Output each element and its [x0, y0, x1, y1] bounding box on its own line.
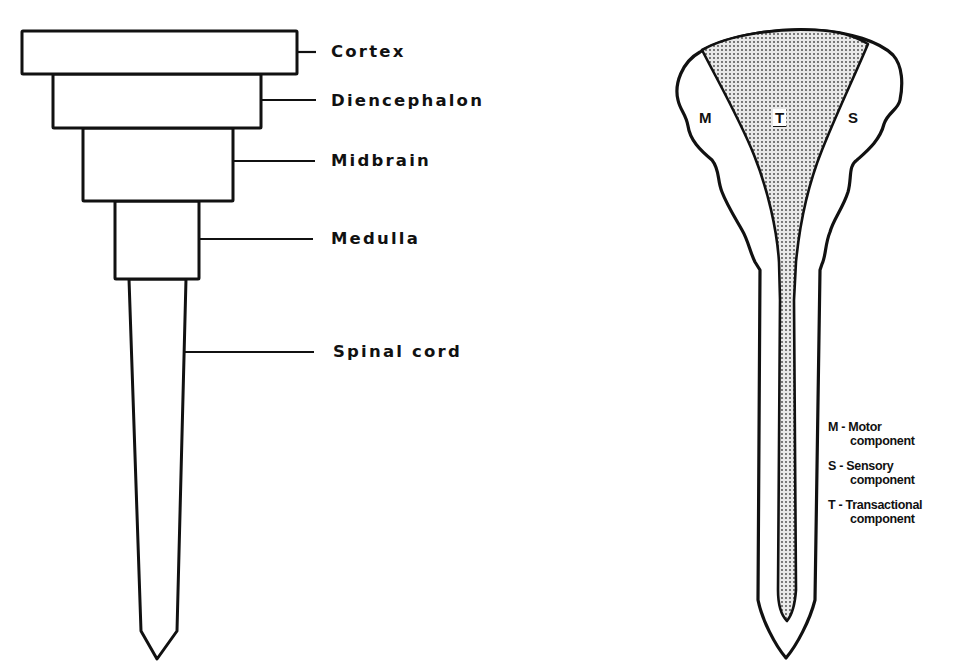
- diagram-graphics: [0, 0, 970, 671]
- legend-transactional-subtitle: component: [828, 512, 922, 526]
- cns-hierarchy-diagram: [22, 31, 297, 659]
- legend-motor-title: M - Motor: [828, 420, 922, 434]
- legend-sensory-subtitle: component: [828, 473, 922, 487]
- region-letter-sensory: S: [848, 110, 858, 125]
- figure-canvas: Cortex Diencephalon Midbrain Medulla Spi…: [0, 0, 970, 671]
- label-cortex: Cortex: [331, 44, 406, 61]
- legend-item-motor: M - Motor component: [828, 420, 922, 448]
- legend-sensory-title: S - Sensory: [828, 459, 922, 473]
- label-midbrain: Midbrain: [331, 153, 431, 170]
- label-medulla: Medulla: [331, 231, 420, 248]
- diencephalon-box: [53, 74, 261, 128]
- cortex-box: [22, 31, 297, 74]
- region-letter-transactional: T: [773, 110, 786, 125]
- medulla-box: [115, 201, 199, 279]
- legend-item-sensory: S - Sensory component: [828, 459, 922, 487]
- midbrain-box: [83, 128, 233, 201]
- legend-item-transactional: T - Transactional component: [828, 498, 922, 526]
- transactional-letter-box: T: [773, 109, 786, 127]
- spinal-cord-shape: [129, 279, 186, 659]
- label-diencephalon: Diencephalon: [331, 93, 484, 110]
- legend-transactional-title: T - Transactional: [828, 498, 922, 512]
- legend: M - Motor component S - Sensory componen…: [828, 420, 922, 537]
- region-letter-motor: M: [699, 110, 712, 125]
- label-spinal-cord: Spinal cord: [333, 344, 462, 361]
- legend-motor-subtitle: component: [828, 434, 922, 448]
